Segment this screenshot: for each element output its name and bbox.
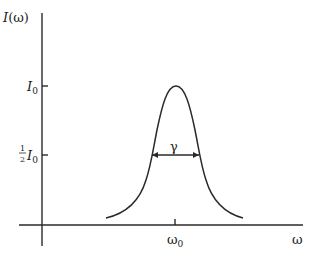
- y-tick-half-label: 1 2 I0: [19, 144, 38, 165]
- y-axis-label: I(ω): [2, 10, 29, 25]
- svg-text:1: 1: [20, 144, 25, 153]
- x-tick-center-label: ω0: [167, 232, 184, 249]
- svg-text:2: 2: [20, 155, 25, 164]
- intensity-profile-diagram: I(ω) I0 1 2 I0 γ ω0 ω: [0, 0, 319, 255]
- x-axis-label: ω: [292, 232, 303, 247]
- y-tick-peak-label: I0: [26, 79, 38, 96]
- fwhm-label: γ: [170, 139, 178, 154]
- svg-text:I0: I0: [26, 148, 38, 165]
